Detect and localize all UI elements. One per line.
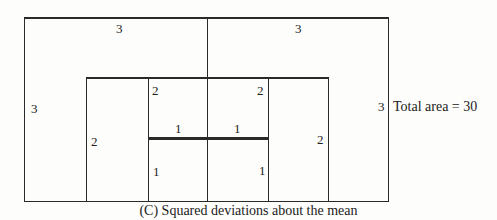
label-inner-top-left: 1 — [175, 122, 182, 136]
center-divider — [207, 17, 208, 202]
outer-right-edge — [388, 17, 389, 202]
outer-left-edge — [24, 17, 25, 202]
label-outer-top-right: 3 — [295, 22, 302, 36]
total-area-label: Total area = 30 — [393, 100, 477, 114]
middle-left-edge — [86, 77, 87, 202]
label-mid-top-right: 2 — [257, 84, 264, 98]
label-outer-left: 3 — [31, 102, 38, 116]
label-inner-top-right: 1 — [234, 122, 241, 136]
label-inner-right: 1 — [259, 164, 266, 178]
label-mid-right: 2 — [317, 133, 324, 147]
middle-right-edge — [328, 77, 329, 202]
inner-top-edge — [148, 137, 269, 140]
label-inner-left: 1 — [153, 165, 160, 179]
label-mid-left: 2 — [91, 135, 98, 149]
label-outer-right: 3 — [378, 100, 385, 114]
figure-caption: (C) Squared deviations about the mean — [0, 203, 497, 219]
label-outer-top-left: 3 — [116, 22, 123, 36]
label-mid-top-left: 2 — [152, 84, 159, 98]
middle-top-edge — [86, 77, 329, 79]
